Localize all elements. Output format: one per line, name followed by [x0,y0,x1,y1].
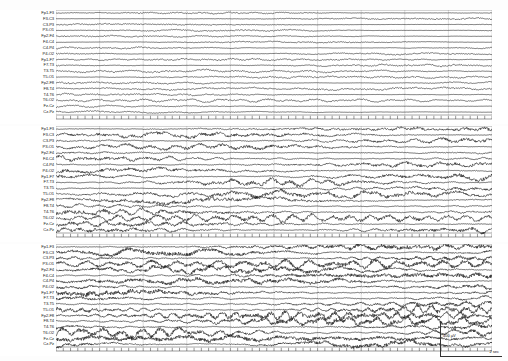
calibration-voltage-label: 400 µV [443,333,456,338]
eeg-waveforms-block-1 [56,10,492,124]
channel-label-cz-to-pz: Cz-Pz [14,341,55,349]
eeg-block-1[interactable]: Fp1-F3F3-C3C3-P3P3-O1Fp2-F4F4-C4C4-P4P4-… [0,10,508,124]
eeg-waveforms-block-2 [56,126,492,242]
trace-area-3[interactable] [56,244,492,356]
eeg-waveforms-block-3 [56,244,492,356]
timing-tick-row [56,234,492,237]
timing-tick-row [56,348,492,351]
eeg-page: Fp1-F3F3-C3C3-P3P3-O1Fp2-F4F4-C4C4-P4P4-… [0,0,508,361]
eeg-block-2[interactable]: Fp1-F3F3-C3C3-P3P3-O1Fp2-F4F4-C4C4-P4P4-… [0,126,508,242]
channel-label-cz-to-pz: Cz-Pz [14,109,55,117]
trace-area-2[interactable] [56,126,492,242]
calibration-marker: 400 µV 2 sec [440,321,502,357]
trace-area-1[interactable] [56,10,492,124]
eeg-block-3[interactable]: Fp1-F3F3-C3C3-P3P3-O1Fp2-F4F4-C4C4-P4P4-… [0,244,508,356]
calibration-time-label: 2 sec [489,349,499,354]
channel-label-column-1: Fp1-F3F3-C3C3-P3P3-O1Fp2-F4F4-C4C4-P4P4-… [24,10,54,125]
channel-label-cz-to-pz: Cz-Pz [14,227,55,235]
timing-tick-row [56,116,492,119]
channel-label-column-3: Fp1-F3F3-C3C3-P3P3-O1Fp2-F4F4-C4C4-P4P4-… [24,244,54,357]
channel-label-column-2: Fp1-F3F3-C3C3-P3P3-O1Fp2-F4F4-C4C4-P4P4-… [24,126,54,243]
